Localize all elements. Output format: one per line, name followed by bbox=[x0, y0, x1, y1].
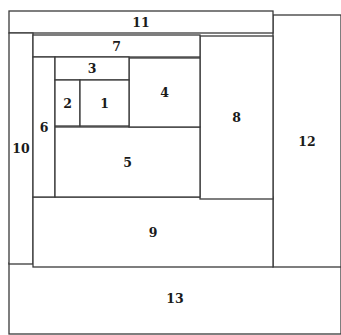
region-8: 8 bbox=[200, 36, 273, 199]
nested-rectangles-diagram: 13121110987654321 bbox=[0, 0, 341, 335]
region-4: 4 bbox=[129, 58, 200, 127]
region-10-label: 10 bbox=[12, 141, 30, 156]
region-9-label: 9 bbox=[149, 225, 158, 240]
region-1-label: 1 bbox=[100, 96, 109, 111]
region-6: 6 bbox=[33, 57, 55, 197]
region-9: 9 bbox=[33, 197, 273, 267]
region-13: 13 bbox=[9, 263, 341, 334]
region-3-label: 3 bbox=[88, 61, 97, 76]
region-4-label: 4 bbox=[160, 85, 169, 100]
region-3: 3 bbox=[55, 57, 129, 80]
region-1: 1 bbox=[80, 80, 129, 126]
region-2: 2 bbox=[55, 80, 80, 126]
region-5-label: 5 bbox=[123, 155, 132, 170]
region-6-label: 6 bbox=[40, 120, 49, 135]
region-7-label: 7 bbox=[112, 39, 121, 54]
region-11: 11 bbox=[9, 11, 273, 33]
region-12-label: 12 bbox=[298, 134, 315, 149]
region-10: 10 bbox=[9, 33, 33, 264]
region-2-label: 2 bbox=[63, 96, 72, 111]
region-8-label: 8 bbox=[232, 110, 241, 125]
region-7: 7 bbox=[33, 35, 200, 57]
region-13-label: 13 bbox=[166, 291, 183, 306]
region-12: 12 bbox=[273, 15, 341, 267]
region-11-label: 11 bbox=[132, 15, 149, 30]
region-5: 5 bbox=[55, 127, 200, 197]
